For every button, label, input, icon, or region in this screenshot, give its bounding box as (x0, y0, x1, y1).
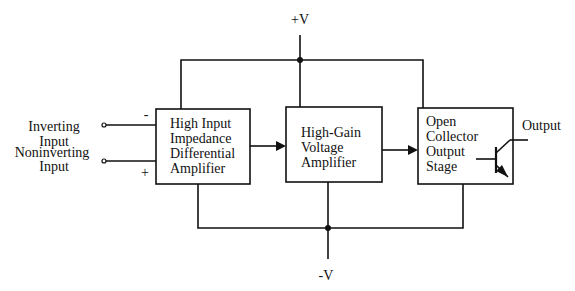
block3-line4: Stage (426, 159, 457, 174)
positive-supply-label: +V (291, 12, 309, 27)
noninverting-input-terminal (102, 159, 106, 163)
inverting-input-terminal (102, 123, 106, 127)
block3-line2: Collector (426, 129, 478, 144)
block2-line1: High-Gain (301, 125, 361, 140)
block1-line3: Differential (170, 146, 235, 161)
arrow-1-2-icon (276, 141, 286, 151)
block2-line3: Amplifier (301, 155, 357, 170)
block1-line2: Impedance (170, 131, 231, 146)
inverting-input-label-1: Inverting (28, 119, 79, 134)
minus-sign: - (144, 107, 149, 122)
noninverting-input-label-2: Input (39, 159, 69, 174)
negative-supply-rail (198, 184, 463, 228)
npn-transistor-icon (476, 140, 528, 177)
output-label: Output (522, 118, 561, 133)
arrow-2-3-icon (408, 145, 418, 155)
block3-line1: Open (426, 114, 456, 129)
block1-line4: Amplifier (170, 161, 226, 176)
block3-line3: Output (426, 144, 465, 159)
positive-supply-node (297, 57, 303, 63)
block1-line1: High Input (170, 116, 231, 131)
comparator-block-diagram: +V -V Inverting Input Noninverting Input… (0, 0, 575, 291)
negative-supply-label: -V (319, 268, 334, 283)
plus-sign: + (141, 165, 149, 180)
noninverting-input-label-1: Noninverting (15, 145, 90, 160)
negative-supply-node (325, 225, 331, 231)
positive-supply-rail (181, 60, 423, 109)
block2-line2: Voltage (301, 140, 344, 155)
